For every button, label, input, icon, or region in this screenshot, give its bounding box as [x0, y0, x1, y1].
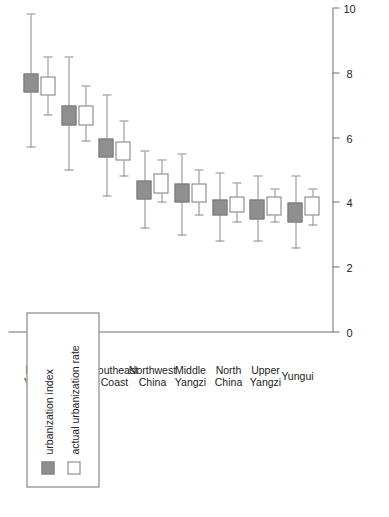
whisker-cap-low — [81, 140, 90, 141]
box-filled — [23, 73, 38, 92]
legend-label: urbanization index — [42, 369, 54, 454]
value-axis-line — [332, 8, 333, 332]
category-axis-label: Yungui — [266, 369, 328, 381]
whisker-cap-high — [232, 182, 241, 183]
whisker-cap-low — [64, 169, 73, 170]
whisker-cap-low — [232, 221, 241, 222]
box-open — [266, 196, 281, 215]
value-axis-tick-label: 10 — [329, 2, 369, 14]
whisker-cap-low — [26, 146, 35, 147]
box-open — [153, 173, 168, 192]
box-filled — [98, 138, 113, 157]
whisker-cap-low — [43, 114, 52, 115]
box-open — [115, 141, 130, 160]
whisker-cap-low — [177, 234, 186, 235]
whisker-cap-low — [157, 201, 166, 202]
box-filled — [61, 105, 76, 124]
whisker-cap-high — [270, 188, 279, 189]
box-open — [304, 196, 319, 215]
whisker-cap-high — [43, 56, 52, 57]
whisker-cap-low — [194, 214, 203, 215]
legend-item[interactable]: urbanization index — [41, 369, 54, 474]
whisker-cap-low — [119, 175, 128, 176]
legend-item[interactable]: actual urbanization rate — [67, 345, 80, 474]
chart-legend: urbanization indexactual urbanization ra… — [26, 312, 99, 487]
value-axis-tick-label: 0 — [329, 326, 369, 338]
whisker-cap-high — [253, 175, 262, 176]
whisker-cap-low — [215, 240, 224, 241]
chart-rotation-wrapper: 0246810LowerYangziLingnanSoutheastCoastN… — [0, 0, 389, 517]
whisker-cap-high — [308, 188, 317, 189]
box-filled — [287, 202, 302, 221]
legend-swatch-open — [67, 461, 80, 474]
whisker-cap-high — [64, 56, 73, 57]
box-filled — [212, 199, 227, 215]
whisker-cap-low — [308, 224, 317, 225]
value-axis-tick-label: 6 — [329, 132, 369, 144]
whisker-cap-low — [253, 240, 262, 241]
box-open — [229, 196, 244, 212]
whisker-cap-high — [140, 150, 149, 151]
value-axis-tick-label: 2 — [329, 261, 369, 273]
whisker-cap-high — [102, 94, 111, 95]
whisker-cap-high — [119, 120, 128, 121]
whisker-cap-low — [102, 195, 111, 196]
whisker-cap-high — [157, 159, 166, 160]
whisker-cap-high — [215, 172, 224, 173]
value-axis-tick-label: 8 — [329, 67, 369, 79]
box-filled — [174, 183, 189, 202]
value-axis-tick-label: 4 — [329, 196, 369, 208]
whisker-cap-high — [81, 85, 90, 86]
whisker-cap-low — [270, 221, 279, 222]
legend-label: actual urbanization rate — [68, 345, 80, 454]
chart-plot-area: 0246810LowerYangziLingnanSoutheastCoastN… — [0, 0, 389, 517]
chart-figure: 0246810LowerYangziLingnanSoutheastCoastN… — [0, 0, 389, 517]
whisker-cap-low — [291, 247, 300, 248]
box-filled — [136, 180, 151, 199]
whisker-cap-high — [194, 169, 203, 170]
category-axis-label-line: Yungui — [266, 369, 328, 381]
box-filled — [249, 199, 264, 218]
legend-swatch-filled — [41, 461, 54, 474]
whisker-cap-high — [26, 13, 35, 14]
box-open — [191, 183, 206, 202]
box-open — [78, 105, 93, 124]
box-open — [40, 76, 55, 95]
whisker-cap-high — [177, 153, 186, 154]
whisker-cap-high — [291, 175, 300, 176]
whisker-cap-low — [140, 227, 149, 228]
